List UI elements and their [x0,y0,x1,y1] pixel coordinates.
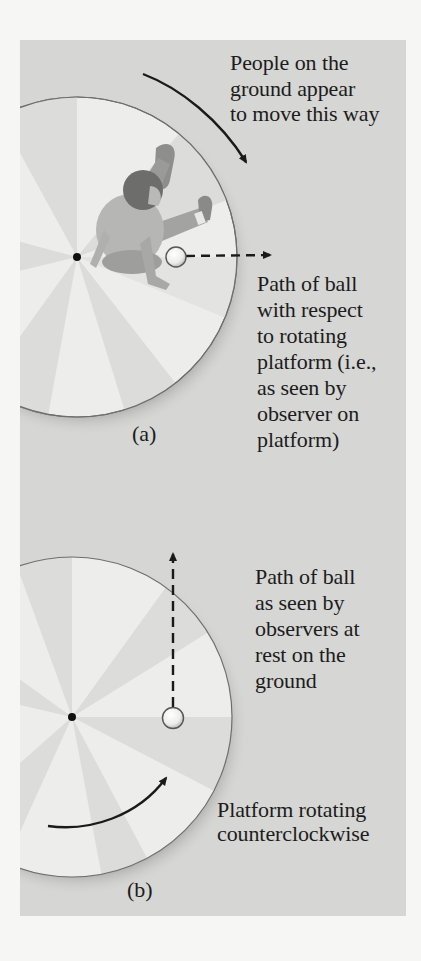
caption-path-b: Path of ball as seen by observers at res… [255,564,359,694]
panel-label-a: (a) [132,422,156,446]
panel-label-b: (b) [127,878,153,902]
figure-illustration [20,40,406,916]
caption-rotation-b: Platform rotating counterclockwise [217,798,369,846]
figure-panel: People on the ground appear to move this… [20,40,406,916]
ball-a [166,247,186,267]
pivot-dot-a [73,253,81,261]
ball-b [163,708,184,729]
caption-motion-a: People on the ground appear to move this… [230,50,379,127]
platform-b [20,520,270,916]
pivot-dot-b [68,713,76,721]
caption-path-a: Path of ball with respect to rotating pl… [257,271,376,453]
